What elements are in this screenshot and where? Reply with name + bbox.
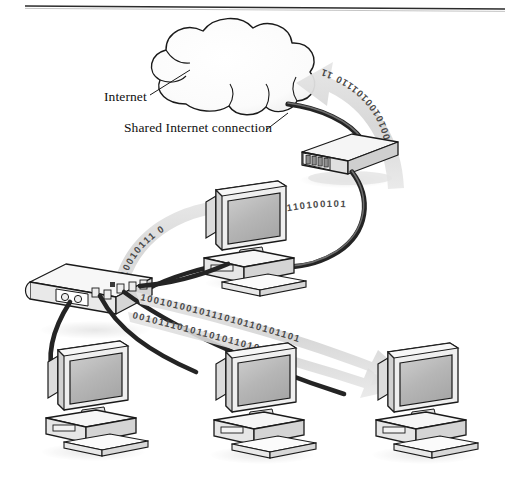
computer-top [146,181,306,296]
computer-bottom-right [376,343,478,458]
label-internet: Internet [104,89,147,104]
hub [26,264,153,314]
internet-cloud [151,19,314,115]
label-shared-internet-connection: Shared Internet connection [124,120,272,135]
top-rule [25,6,505,11]
router [302,134,398,185]
network-diagram: 10010100101110 11 110110100101 [0,0,509,491]
computer-bottom-left [46,341,148,456]
